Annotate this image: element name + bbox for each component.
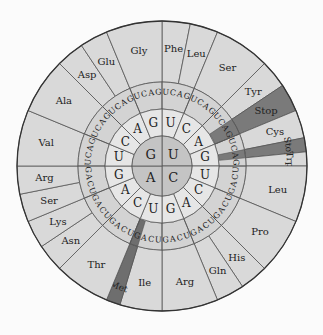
third-base-letter: G xyxy=(162,235,169,244)
amino-acid-label: Ala xyxy=(55,95,72,106)
amino-acid-label: His xyxy=(228,252,245,263)
second-base-letter: U xyxy=(148,202,158,216)
third-base-letter: G xyxy=(231,159,240,166)
amino-acid-label: Ser xyxy=(219,62,237,73)
amino-acid-label: Phe xyxy=(164,43,183,54)
amino-acid-label: Leu xyxy=(268,184,288,195)
third-base-letter: C xyxy=(230,173,240,180)
amino-acid-label: Lys xyxy=(49,216,66,227)
third-base-letter: U xyxy=(162,87,169,96)
second-base-letter: C xyxy=(182,122,191,136)
amino-acid-label: Gln xyxy=(209,265,227,276)
second-base-letter: U xyxy=(166,116,176,130)
amino-acid-label: Pro xyxy=(251,226,269,237)
amino-acid-label: Arg xyxy=(175,276,195,287)
third-base-letter: G xyxy=(155,87,162,96)
second-base-letter: G xyxy=(114,168,124,182)
first-base-letter: U xyxy=(168,147,179,162)
second-base-letter: A xyxy=(132,122,142,136)
first-base-letter: G xyxy=(145,147,155,162)
amino-acid-label: Cys xyxy=(266,126,284,137)
amino-acid-label: Ser xyxy=(40,195,58,206)
first-base-letter: C xyxy=(168,170,178,185)
second-base-letter: G xyxy=(166,202,176,216)
second-base-letter: A xyxy=(193,135,203,149)
second-base-letter: G xyxy=(149,116,159,130)
amino-acid-label: Ile xyxy=(138,277,151,288)
second-base-letter: C xyxy=(194,183,203,197)
second-base-letter: U xyxy=(200,168,210,182)
amino-acid-label: Asn xyxy=(60,235,80,246)
amino-acid-label: Gly xyxy=(131,45,148,56)
second-base-letter: A xyxy=(181,196,191,210)
third-base-letter: C xyxy=(84,151,94,158)
amino-acid-label: Arg xyxy=(34,172,54,183)
third-base-letter: U xyxy=(83,159,92,166)
third-base-letter: C xyxy=(147,234,154,244)
first-base-letter: A xyxy=(145,170,156,185)
amino-acid-label: Tyr xyxy=(245,86,262,97)
amino-acid-label: Asp xyxy=(77,69,97,80)
genetic-code-wheel: PheLeuSerTyrStopCysStopTrpLeuProHisGlnAr… xyxy=(0,0,323,335)
third-base-letter: U xyxy=(155,235,162,244)
third-base-letter: G xyxy=(83,166,92,173)
amino-acid-label: Val xyxy=(38,137,54,148)
third-base-letter: U xyxy=(231,166,240,173)
amino-acid-label: Leu xyxy=(187,48,207,59)
third-base-letter: C xyxy=(169,88,176,98)
amino-acid-label: Stop xyxy=(254,105,277,116)
amino-acid-label: Glu xyxy=(98,56,116,67)
second-base-letter: U xyxy=(114,150,124,164)
amino-acid-label: Thr xyxy=(87,259,105,270)
second-base-letter: G xyxy=(200,150,210,164)
second-base-letter: C xyxy=(121,135,130,149)
second-base-letter: C xyxy=(133,196,142,210)
second-base-letter: A xyxy=(120,183,130,197)
